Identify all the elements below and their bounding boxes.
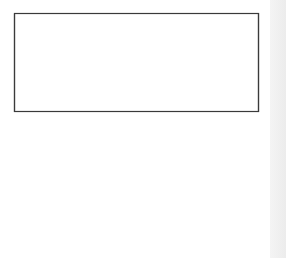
setup-diagram (0, 0, 286, 258)
frame-rect-outer (15, 14, 259, 112)
